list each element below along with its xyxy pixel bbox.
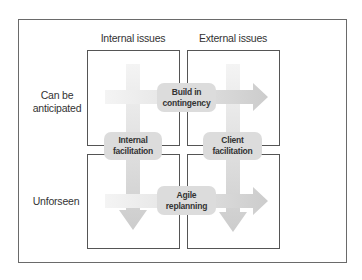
strategy-label-line: Agile: [166, 190, 207, 201]
strategy-label-line: replanning: [166, 201, 207, 212]
strategy-label-line: contingency: [163, 98, 211, 109]
strategy-agile-replanning: Agile replanning: [157, 186, 216, 215]
strategy-label-line: Build in: [163, 87, 211, 98]
strategy-label-line: Client: [212, 135, 252, 146]
strategy-build-in-contingency: Build in contingency: [157, 83, 216, 112]
arrows-layer: [0, 0, 362, 280]
strategy-internal-facilitation: Internal facilitation: [104, 132, 162, 160]
strategy-label-line: Internal: [113, 135, 153, 146]
strategy-label-line: facilitation: [113, 146, 153, 157]
strategy-label-line: facilitation: [212, 146, 252, 157]
strategy-client-facilitation: Client facilitation: [203, 132, 262, 160]
